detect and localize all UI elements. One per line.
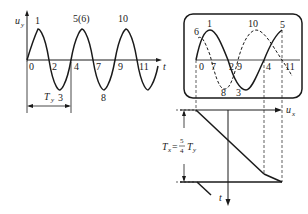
left-plot-labels: u y t 1 5(6) 10 0 2 4 7 9 11 3 8 T y bbox=[15, 13, 166, 104]
trough-label-3: 3 bbox=[58, 92, 63, 103]
uy-sub: y bbox=[20, 21, 25, 29]
arrow-left-icon bbox=[27, 104, 33, 108]
ux-label: u bbox=[286, 104, 291, 115]
screen-axis-0: 0 bbox=[199, 61, 204, 72]
sweep-plot bbox=[176, 108, 282, 207]
axis-label-7: 7 bbox=[96, 61, 101, 72]
screen-axis-9: 9 bbox=[237, 61, 242, 72]
axis-label-0: 0 bbox=[29, 61, 34, 72]
axis-label-11: 11 bbox=[139, 61, 149, 72]
sweep-t-label: t bbox=[219, 192, 222, 203]
sawtooth-next-ramp bbox=[197, 182, 211, 195]
axis-label-2: 2 bbox=[52, 61, 57, 72]
ux-sub: x bbox=[291, 110, 296, 118]
peak-label-10: 10 bbox=[118, 13, 128, 24]
peak-label-5-6: 5(6) bbox=[73, 13, 90, 25]
trough-label-8: 8 bbox=[101, 92, 106, 103]
screen-axis-11: 11 bbox=[285, 61, 295, 72]
ux-axis-arrow-icon bbox=[275, 108, 282, 113]
formula-eq: = bbox=[172, 141, 178, 152]
sweep-labels: u x t T x = 5 4 T y bbox=[162, 104, 296, 203]
period-label: T bbox=[44, 91, 51, 102]
t-axis-arrow-icon bbox=[156, 58, 162, 62]
tx-arrow-up-icon bbox=[182, 110, 186, 116]
peak-label-1: 1 bbox=[35, 15, 40, 26]
screen-axis-7: 7 bbox=[211, 61, 216, 72]
sawtooth-ramp bbox=[196, 110, 264, 174]
scope-screen bbox=[184, 14, 302, 182]
sweep-t-arrow-icon bbox=[226, 199, 231, 206]
screen-label-5: 5 bbox=[280, 19, 285, 30]
screen-axis-4: 4 bbox=[266, 61, 271, 72]
axis-label-4: 4 bbox=[74, 61, 79, 72]
tx-arrow-down-icon bbox=[182, 176, 186, 182]
arrow-right-icon bbox=[65, 104, 71, 108]
axis-label-9: 9 bbox=[118, 61, 123, 72]
screen-label-8: 8 bbox=[221, 87, 226, 98]
screen-label-3: 3 bbox=[236, 87, 241, 98]
t-label: t bbox=[163, 61, 166, 72]
formula-den: 4 bbox=[180, 147, 184, 155]
screen-label-10: 10 bbox=[248, 18, 258, 29]
screen-label-1: 1 bbox=[207, 18, 212, 29]
oscilloscope-diagram: u y t 1 5(6) 10 0 2 4 7 9 11 3 8 T y 6 1… bbox=[0, 0, 308, 214]
uy-label: u bbox=[15, 15, 20, 26]
screen-dashed-trace bbox=[198, 30, 292, 89]
formula-num: 5 bbox=[180, 137, 184, 145]
sawtooth-ramp-end bbox=[264, 174, 282, 182]
uy-axis-arrow-icon bbox=[25, 10, 29, 16]
screen-axis-2: 2 bbox=[229, 61, 234, 72]
formula-ty-sub: y bbox=[192, 146, 197, 154]
period-sub: y bbox=[50, 96, 55, 104]
screen-label-6: 6 bbox=[194, 26, 199, 37]
